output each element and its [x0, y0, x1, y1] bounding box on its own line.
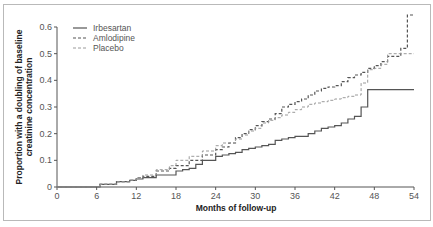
- x-tick-label: 42: [330, 191, 340, 201]
- kaplan-meier-chart: 00.10.20.30.40.50.6 061218243036424854 I…: [0, 0, 433, 227]
- x-tick-label: 6: [94, 191, 99, 201]
- x-tick-label: 54: [409, 191, 419, 201]
- y-axis-title-line-1: Proportion with a doubling of baseline: [14, 29, 24, 184]
- y-tick-label: 0.2: [39, 129, 52, 139]
- y-tick-label: 0.3: [39, 102, 52, 112]
- y-axis-title-line-2: creatinine concentration: [24, 58, 34, 157]
- legend-item-irbesartan: Irbesartan: [73, 23, 132, 33]
- legend-label: Irbesartan: [93, 23, 132, 33]
- y-tick-label: 0.5: [39, 49, 52, 59]
- y-tick-label: 0.4: [39, 75, 52, 85]
- legend-label: Amlodipine: [93, 33, 135, 43]
- legend-label: Placebo: [93, 43, 124, 53]
- y-tick-label: 0.6: [39, 22, 52, 32]
- y-tick-label: 0.1: [39, 155, 52, 165]
- x-tick-label: 0: [54, 191, 59, 201]
- x-tick-label: 30: [250, 191, 260, 201]
- legend-item-amlodipine: Amlodipine: [73, 33, 135, 43]
- chart-frame: [4, 5, 431, 221]
- y-axis: 00.10.20.30.40.50.6: [39, 22, 57, 192]
- x-tick-label: 24: [211, 191, 221, 201]
- x-axis: 061218243036424854: [54, 187, 419, 201]
- x-tick-label: 12: [131, 191, 141, 201]
- y-axis-title: Proportion with a doubling of baseline c…: [14, 29, 34, 184]
- x-axis-title: Months of follow-up: [196, 203, 277, 213]
- legend-item-placebo: Placebo: [73, 43, 124, 53]
- x-tick-label: 18: [171, 191, 181, 201]
- legend: Irbesartan Amlodipine Placebo: [73, 23, 135, 53]
- x-tick-label: 48: [369, 191, 379, 201]
- y-tick-label: 0: [47, 182, 52, 192]
- x-tick-label: 36: [290, 191, 300, 201]
- series-placebo-curve: [57, 54, 414, 187]
